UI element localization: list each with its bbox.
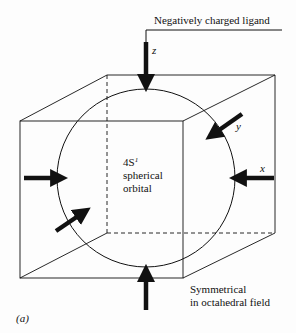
ligand-label: Negatively charged ligand <box>154 14 270 27</box>
orbital-label: 4S1 spherical orbital <box>123 156 163 195</box>
z-axis-label: z <box>152 44 156 57</box>
ligand-leader-line <box>146 30 282 42</box>
orbital-line3: orbital <box>123 182 163 195</box>
cube-back-face <box>107 75 275 233</box>
symmetry-note: Symmetrical in octahedral field <box>190 283 270 309</box>
orbital-line2: spherical <box>123 169 163 182</box>
arrow-y-front-icon <box>56 212 84 231</box>
symmetry-line2: in octahedral field <box>190 296 270 309</box>
symmetry-line1: Symmetrical <box>190 283 270 296</box>
cube-front-face <box>20 121 183 278</box>
y-axis-label: y <box>236 120 241 133</box>
orbital-name: 4S <box>123 156 135 168</box>
orbital-superscript: 1 <box>135 156 139 164</box>
panel-label: (a) <box>16 312 29 325</box>
x-axis-label: x <box>260 162 265 175</box>
